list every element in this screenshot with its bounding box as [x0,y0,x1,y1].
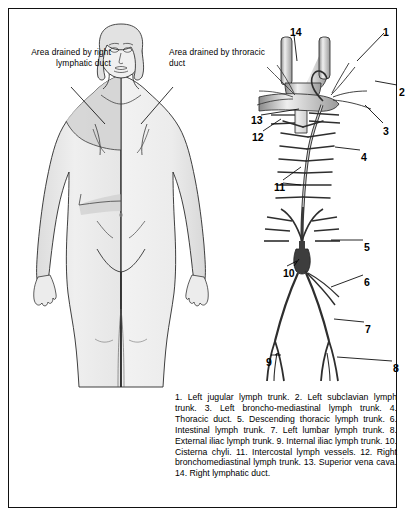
figure-caption: 1. Left jugular lymph trunk. 2. Left sub… [175,392,397,479]
marker-label-5: 5 [364,241,370,253]
thoracic-duct-diagram [257,37,371,381]
marker-label-10: 10 [283,267,295,279]
callout-right-lymphatic-duct: Area drained by right lymphatic duct [19,47,111,68]
marker-label-12: 12 [252,131,264,143]
marker-label-4: 4 [361,151,367,163]
marker-label-8: 8 [393,362,399,374]
marker-label-7: 7 [365,323,371,335]
marker-label-1: 1 [383,26,389,38]
body-silhouette [34,24,209,387]
marker-label-13: 13 [251,114,263,126]
marker-label-11: 11 [274,181,285,193]
callout-thoracic-duct: Area drained by throracic duct [169,47,269,68]
marker-label-3: 3 [383,125,389,137]
figure-frame: Area drained by right lymphatic duct Are… [8,8,397,508]
marker-label-9: 9 [266,356,272,368]
marker-label-6: 6 [364,276,370,288]
marker-label-2: 2 [399,86,405,98]
figure-page: Area drained by right lymphatic duct Are… [0,0,406,518]
marker-label-14: 14 [290,26,302,38]
